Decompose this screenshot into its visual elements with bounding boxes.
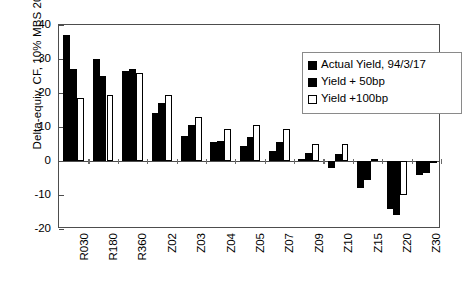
x-axis-category-label: R180 bbox=[107, 233, 119, 261]
chart-legend: Actual Yield, 94/3/17 Yield + 50bp Yield… bbox=[302, 52, 462, 114]
bar bbox=[387, 161, 394, 209]
legend-item: Yield + 50bp bbox=[308, 74, 456, 90]
bar bbox=[240, 146, 247, 161]
y-axis-tick-label: 20 bbox=[11, 86, 51, 98]
bar bbox=[136, 73, 143, 161]
bar bbox=[430, 161, 437, 163]
x-axis-tick-mark bbox=[177, 159, 178, 164]
chart-figure: Delta-equiv. CF, 10% MBS 2020 403020100-… bbox=[0, 0, 462, 282]
x-axis-tick-mark bbox=[265, 159, 266, 164]
bar bbox=[312, 144, 319, 161]
legend-item-label: Yield +100bp bbox=[321, 93, 388, 105]
y-axis-tick-label: -10 bbox=[11, 188, 51, 200]
bar bbox=[400, 161, 407, 195]
bar bbox=[364, 161, 371, 180]
x-axis-category-label: Z30 bbox=[430, 233, 442, 253]
x-axis-tick-mark bbox=[412, 159, 413, 164]
bar bbox=[188, 125, 195, 161]
legend-item-label: Actual Yield, 94/3/17 bbox=[321, 59, 426, 71]
x-axis-tick-mark bbox=[441, 159, 442, 164]
legend-swatch-icon bbox=[308, 95, 317, 104]
bar bbox=[328, 161, 335, 168]
y-axis-tick-label: 30 bbox=[11, 52, 51, 64]
x-axis-tick-mark bbox=[88, 159, 89, 164]
bar bbox=[298, 159, 305, 161]
bar bbox=[247, 137, 254, 161]
x-axis-category-label: Z09 bbox=[313, 233, 325, 253]
x-axis-category-label: Z02 bbox=[166, 233, 178, 253]
y-axis-tick-label: 40 bbox=[11, 18, 51, 30]
bar bbox=[423, 161, 430, 173]
y-axis-tick-mark bbox=[59, 161, 64, 162]
x-axis-category-label: Z03 bbox=[195, 233, 207, 253]
bar bbox=[276, 142, 283, 161]
bar bbox=[269, 151, 276, 161]
y-axis-tick-label: -20 bbox=[11, 222, 51, 234]
x-axis-category-label: Z04 bbox=[225, 233, 237, 253]
bar bbox=[107, 95, 114, 161]
bar bbox=[77, 98, 84, 161]
x-axis-tick-mark bbox=[323, 159, 324, 164]
x-axis-category-label: R360 bbox=[136, 233, 148, 261]
x-axis-tick-mark bbox=[235, 159, 236, 164]
x-axis-tick-mark bbox=[294, 159, 295, 164]
bar bbox=[371, 159, 378, 161]
bar bbox=[253, 125, 260, 161]
y-axis-tick-mark bbox=[59, 195, 64, 196]
bar bbox=[224, 129, 231, 161]
legend-item-label: Yield + 50bp bbox=[321, 76, 385, 88]
bar bbox=[357, 161, 364, 188]
bar bbox=[129, 69, 136, 161]
plot-area: Actual Yield, 94/3/17 Yield + 50bp Yield… bbox=[58, 24, 440, 228]
bar bbox=[210, 142, 217, 161]
bar bbox=[305, 153, 312, 162]
x-axis-category-label: Z07 bbox=[283, 233, 295, 253]
x-axis-category-label: Z15 bbox=[372, 233, 384, 253]
bar bbox=[393, 161, 400, 215]
y-axis-tick-mark bbox=[59, 25, 64, 26]
x-axis-category-label: Z20 bbox=[401, 233, 413, 253]
x-axis-category-label: Z10 bbox=[342, 233, 354, 253]
bar bbox=[122, 71, 129, 161]
legend-item: Actual Yield, 94/3/17 bbox=[308, 57, 456, 73]
y-axis-tick-label: 10 bbox=[11, 120, 51, 132]
bar bbox=[335, 154, 342, 161]
bar bbox=[217, 141, 224, 161]
x-axis-category-label: Z05 bbox=[254, 233, 266, 253]
bar bbox=[100, 76, 107, 161]
x-axis-tick-mark bbox=[147, 159, 148, 164]
y-axis-tick-label: 0 bbox=[11, 154, 51, 166]
legend-item: Yield +100bp bbox=[308, 91, 456, 107]
bar bbox=[152, 113, 159, 161]
bar bbox=[165, 95, 172, 161]
bar bbox=[283, 129, 290, 161]
bar bbox=[416, 161, 423, 175]
bar bbox=[63, 35, 70, 161]
legend-swatch-icon bbox=[308, 78, 317, 87]
x-axis-category-label: R030 bbox=[78, 233, 90, 261]
bar bbox=[70, 69, 77, 161]
bar bbox=[93, 59, 100, 161]
x-axis-tick-mark bbox=[382, 159, 383, 164]
x-axis-tick-mark bbox=[353, 159, 354, 164]
bar bbox=[181, 136, 188, 162]
y-axis-tick-mark bbox=[59, 229, 64, 230]
bar bbox=[342, 144, 349, 161]
bar bbox=[158, 103, 165, 161]
x-axis-tick-mark bbox=[206, 159, 207, 164]
x-axis-tick-mark bbox=[118, 159, 119, 164]
legend-swatch-icon bbox=[308, 61, 317, 70]
bar bbox=[195, 117, 202, 161]
